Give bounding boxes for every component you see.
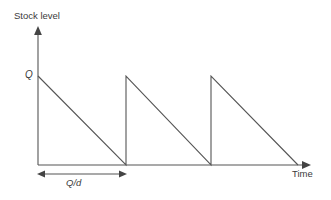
x-axis-label: Time bbox=[292, 169, 313, 179]
cycle-duration-label: Q/d bbox=[66, 178, 81, 188]
y-axis-value-marker-q: Q bbox=[25, 70, 33, 80]
stock-level-sawtooth-figure: Stock level Time Q Q/d bbox=[0, 0, 331, 200]
cycle-dimension-left-arrow-icon bbox=[37, 171, 45, 178]
stock-level-sawtooth-series bbox=[38, 76, 298, 165]
cycle-dimension-right-arrow-icon bbox=[119, 171, 127, 178]
y-axis-arrow-icon bbox=[34, 26, 42, 35]
chart-canvas bbox=[0, 0, 331, 200]
y-axis-label: Stock level bbox=[14, 11, 60, 21]
